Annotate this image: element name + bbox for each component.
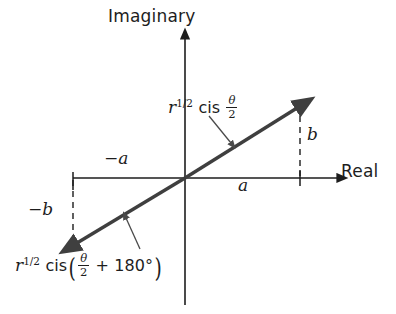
annotation-lower-fraction: θ 2 (78, 252, 89, 278)
annotation-upper-exponent: 1/2 (176, 97, 193, 109)
imaginary-axis-label: Imaginary (108, 8, 196, 25)
complex-plane-diagram: Imaginary Real −a a b −b r1/2 cis θ 2 r1… (0, 0, 396, 314)
annotation-lower-operator: + (96, 256, 109, 275)
annotation-upper-fraction: θ 2 (226, 94, 237, 120)
vector-second-root (77, 178, 185, 243)
tick-label-neg-b: −b (28, 201, 53, 218)
annotation-upper-function: cis (198, 98, 220, 117)
annotation-lower-exponent: 1/2 (23, 255, 40, 267)
annotation-lower-numerator: θ (78, 252, 89, 266)
tick-label-neg-a: −a (104, 150, 128, 167)
annotation-upper-numerator: θ (226, 94, 237, 108)
leader-arrow-lower (126, 218, 140, 249)
annotation-principal-root: r1/2 cis θ 2 (168, 94, 238, 120)
annotation-lower-open-paren: ( (68, 255, 75, 281)
real-axis-label: Real (341, 163, 378, 180)
tick-label-pos-b: b (307, 126, 318, 143)
annotation-lower-function: cis (45, 256, 67, 275)
annotation-upper-base: r (168, 97, 176, 117)
annotation-lower-base: r (15, 255, 23, 275)
annotation-lower-close-paren: ) (154, 255, 161, 281)
tick-label-pos-a: a (238, 177, 248, 194)
annotation-upper-denominator: 2 (226, 108, 237, 121)
annotation-lower-angle: 180° (114, 256, 153, 275)
annotation-second-root: r1/2 cis( θ 2 + 180°) (15, 252, 163, 281)
annotation-lower-denominator: 2 (78, 266, 89, 279)
